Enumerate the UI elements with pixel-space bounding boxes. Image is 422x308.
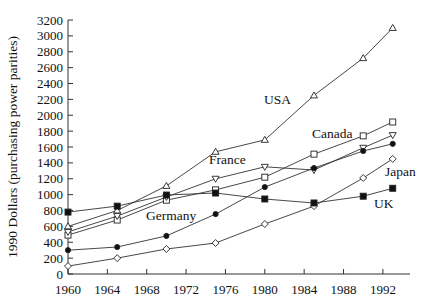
x-tick-label: 1972: [173, 282, 199, 297]
filled-circle-marker: [65, 248, 70, 253]
x-tick-label: 1976: [212, 282, 239, 297]
diamond-marker: [65, 263, 72, 270]
filled-circle-marker: [262, 184, 267, 189]
y-tick-label: 600: [44, 219, 64, 234]
x-tick-label: 1992: [370, 282, 396, 297]
square-marker: [360, 133, 366, 139]
filled-square-marker: [213, 190, 219, 196]
y-tick-label: 400: [44, 235, 64, 250]
x-tick-label: 1968: [134, 282, 160, 297]
filled-square-marker: [65, 209, 71, 215]
filled-circle-marker: [361, 148, 366, 153]
diamond-marker: [212, 240, 219, 247]
y-tick-label: 1800: [37, 124, 63, 139]
y-tick-label: 3000: [37, 28, 63, 43]
series-label-usa: USA: [264, 92, 291, 107]
filled-circle-marker: [115, 244, 120, 249]
y-tick-label: 2800: [37, 44, 63, 59]
diamond-marker: [261, 220, 268, 227]
y-tick-label: 200: [44, 251, 64, 266]
filled-circle-marker: [164, 233, 169, 238]
y-axis-label: 1990 Dollars (purchasing power parities): [5, 36, 20, 258]
y-tick-label: 2400: [37, 76, 63, 91]
filled-circle-marker: [311, 165, 316, 170]
triangle-up-marker: [389, 24, 396, 30]
triangle-up-marker: [311, 92, 318, 98]
filled-square-marker: [360, 193, 366, 199]
series-label-japan: Japan: [385, 164, 416, 179]
filled-square-marker: [311, 200, 317, 206]
y-tick-label: 1600: [37, 140, 63, 155]
triangle-down-marker: [389, 133, 396, 139]
x-tick-label: 1988: [331, 282, 357, 297]
filled-circle-marker: [390, 141, 395, 146]
filled-square-marker: [390, 185, 396, 191]
y-tick-label: 2200: [37, 92, 63, 107]
square-marker: [262, 174, 268, 180]
y-tick-label: 0: [57, 267, 64, 282]
diamond-marker: [389, 155, 396, 162]
y-tick-label: 2000: [37, 108, 63, 123]
diamond-marker: [360, 174, 367, 181]
line-chart: 0200400600800100012001400160018002000220…: [0, 0, 422, 308]
y-axis: 0200400600800100012001400160018002000220…: [37, 13, 73, 282]
y-tick-label: 3200: [37, 13, 63, 28]
filled-circle-marker: [213, 211, 218, 216]
y-tick-label: 1400: [37, 155, 63, 170]
x-tick-label: 1980: [252, 282, 278, 297]
series-label-germany: Germany: [146, 208, 196, 223]
triangle-up-marker: [163, 182, 170, 188]
filled-square-marker: [114, 203, 120, 209]
square-marker: [390, 119, 396, 125]
series-group: [65, 24, 397, 269]
series-label-canada: Canada: [312, 126, 352, 141]
diamond-marker: [163, 245, 170, 252]
y-tick-label: 1000: [37, 187, 63, 202]
x-tick-label: 1984: [291, 282, 318, 297]
square-marker: [311, 151, 317, 157]
y-tick-label: 1200: [37, 171, 63, 186]
y-tick-label: 2600: [37, 60, 63, 75]
series-label-uk: UK: [374, 196, 394, 211]
x-tick-label: 1960: [55, 282, 81, 297]
x-axis: 196019641968197219761980198419881992: [55, 269, 410, 297]
filled-square-marker: [163, 192, 169, 198]
filled-square-marker: [262, 196, 268, 202]
series-label-france: France: [209, 152, 246, 167]
diamond-marker: [114, 255, 121, 262]
series-labels: USACanadaFranceGermanyJapanUK: [146, 92, 416, 223]
x-tick-label: 1964: [94, 282, 121, 297]
y-tick-label: 800: [44, 203, 64, 218]
